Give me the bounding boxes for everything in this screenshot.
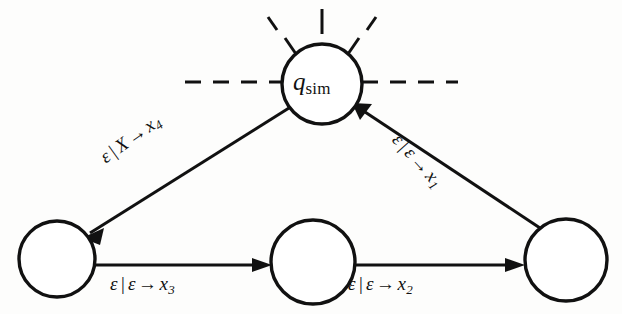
edge-label-push-sub: 3 <box>168 282 175 297</box>
arrow-head-to-bottom-middle <box>252 258 272 272</box>
edge-line-qsim-to-bottom-left <box>90 108 289 233</box>
edge-label-push: x <box>397 273 406 294</box>
arrow-head-to-bottom-right <box>505 258 525 272</box>
ray-upper-right-attached-icon <box>348 38 359 54</box>
edge-label-input-eps: ε <box>110 273 118 294</box>
state-node-bottom-left[interactable] <box>19 221 95 297</box>
edge-label-bottom-left-to-middle: ε|ε→x3 <box>110 273 175 298</box>
ray-upper-left-detached-icon <box>268 17 277 30</box>
edge-line-bottom-right-to-qsim <box>362 110 540 228</box>
edge-label-push: x <box>159 273 168 294</box>
edge-label-pop: ε <box>366 273 374 294</box>
edge-label-input-eps: ε <box>348 273 356 294</box>
state-node-bottom-right[interactable] <box>525 219 607 301</box>
state-label-qsim-main: q <box>293 68 306 95</box>
edge-label-separator: | <box>356 273 366 294</box>
state-node-bottom-middle[interactable] <box>271 220 355 304</box>
edge-label-separator: | <box>118 273 128 294</box>
ray-upper-right-detached-icon <box>367 17 376 30</box>
edge-label-push-sub: 2 <box>406 282 413 297</box>
edge-label-pop: ε <box>128 273 136 294</box>
edge-label-middle-to-bottom-right: ε|ε→x2 <box>348 273 413 298</box>
ray-upper-left-attached-icon <box>285 38 296 54</box>
state-machine-diagram: qsim ε|X→x4 ε|ε→x1 ε|ε→x3 ε|ε→x2 <box>0 0 622 314</box>
state-label-qsim: qsim <box>293 68 331 99</box>
edge-label-arrow-icon: → <box>374 273 397 294</box>
diagram-canvas <box>0 0 622 314</box>
edge-label-arrow-icon: → <box>136 273 159 294</box>
state-label-qsim-sub: sim <box>306 79 331 98</box>
